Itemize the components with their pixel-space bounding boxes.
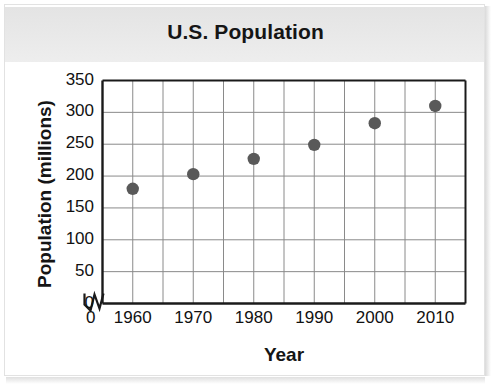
x-tick-label: 1990 — [284, 308, 344, 328]
y-tick-label: 350 — [36, 70, 94, 90]
x-tick-label: 2010 — [405, 308, 465, 328]
data-point — [187, 168, 199, 180]
data-point — [369, 117, 381, 129]
x-tick-label: 1980 — [224, 308, 284, 328]
x-minor-gridlines — [163, 81, 405, 304]
y-tick-label: 150 — [36, 197, 94, 217]
data-point — [127, 183, 139, 195]
page-edge-shadow-bottom — [6, 377, 485, 384]
x-tick-label: 1960 — [103, 308, 163, 328]
data-point — [429, 100, 441, 112]
chart-figure: U.S. Population Population (millions) Ye… — [0, 0, 491, 384]
data-point — [248, 153, 260, 165]
x-tick-label: 2000 — [345, 308, 405, 328]
y-tick-label: 200 — [36, 165, 94, 185]
page-edge-shadow-right — [485, 6, 491, 376]
y-tick-label: 250 — [36, 133, 94, 153]
y-tick-label: 300 — [36, 101, 94, 121]
data-point — [308, 139, 320, 151]
y-tick-label: 50 — [36, 261, 94, 281]
x-axis-origin-label: 0 — [86, 308, 95, 328]
x-tick-label: 1970 — [163, 308, 223, 328]
y-tick-label: 100 — [36, 229, 94, 249]
